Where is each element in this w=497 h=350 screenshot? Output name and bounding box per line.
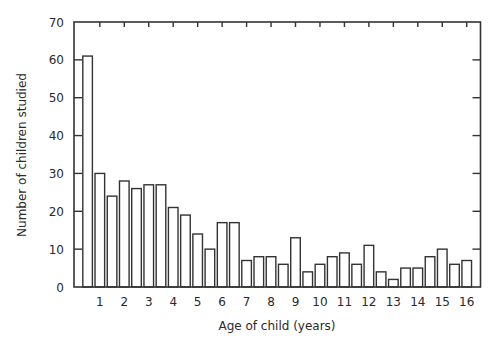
x-tick-label: 7 — [243, 295, 251, 309]
x-tick-label: 9 — [292, 295, 300, 309]
bar — [107, 196, 117, 287]
x-tick-label: 14 — [410, 295, 425, 309]
y-tick-label: 50 — [49, 91, 64, 105]
y-tick-label: 30 — [49, 167, 64, 181]
x-tick-label: 10 — [312, 295, 327, 309]
bar — [156, 185, 166, 287]
bar — [352, 264, 362, 287]
bar — [95, 173, 105, 287]
x-tick-label: 4 — [169, 295, 177, 309]
bar — [303, 272, 313, 287]
bar — [144, 185, 154, 287]
bar — [254, 257, 264, 287]
bar — [364, 245, 374, 287]
y-tick-label: 20 — [49, 205, 64, 219]
y-axis-title: Number of children studied — [15, 73, 29, 237]
y-tick-label: 10 — [49, 243, 64, 257]
bar — [462, 261, 472, 288]
bar — [340, 253, 350, 287]
x-axis-title: Age of child (years) — [218, 319, 335, 333]
bar — [425, 257, 435, 287]
y-tick-label: 70 — [49, 16, 64, 30]
bar — [266, 257, 276, 287]
bar — [450, 264, 460, 287]
x-tick-label: 12 — [361, 295, 376, 309]
bar — [278, 264, 288, 287]
bars-group — [83, 56, 472, 287]
x-tick-label: 16 — [459, 295, 474, 309]
bar-chart: 010203040506070 12345678910111213141516 … — [0, 0, 497, 350]
bar — [181, 215, 191, 287]
x-tick-label: 5 — [194, 295, 202, 309]
bar — [168, 208, 178, 288]
bar — [193, 234, 203, 287]
bar — [401, 268, 411, 287]
x-tick-label: 13 — [386, 295, 401, 309]
bar — [389, 279, 399, 287]
bar — [376, 272, 386, 287]
x-tick-label: 11 — [337, 295, 352, 309]
x-tick-label: 15 — [435, 295, 450, 309]
y-tick-label: 60 — [49, 53, 64, 67]
bar — [242, 261, 252, 288]
x-tick-label: 6 — [218, 295, 226, 309]
bar — [205, 249, 215, 287]
y-tick-label: 0 — [56, 281, 64, 295]
y-tick-label: 40 — [49, 129, 64, 143]
bar — [413, 268, 423, 287]
bar — [230, 223, 240, 287]
bar — [291, 238, 301, 287]
bar — [217, 223, 227, 287]
bar — [119, 181, 129, 287]
bar — [83, 56, 93, 287]
x-tick-label: 2 — [120, 295, 128, 309]
bar — [327, 257, 337, 287]
x-tick-label: 8 — [267, 295, 275, 309]
bar — [437, 249, 447, 287]
bar — [132, 189, 142, 287]
x-tick-label: 3 — [145, 295, 153, 309]
bar — [315, 264, 325, 287]
x-tick-label: 1 — [96, 295, 104, 309]
